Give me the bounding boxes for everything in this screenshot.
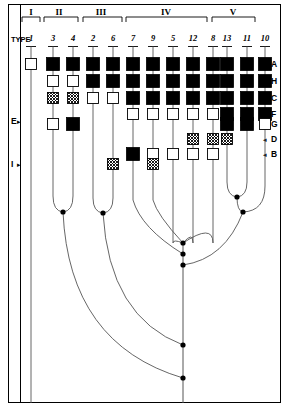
- matrix-cell-C-2[interactable]: [88, 93, 99, 104]
- matrix-cell-C-5[interactable]: [167, 92, 180, 105]
- matrix-cell-C-3[interactable]: [48, 93, 59, 104]
- matrix-cell-A-5[interactable]: [167, 58, 180, 71]
- matrix-cell-H-13[interactable]: [221, 75, 234, 88]
- tree-node-3-4[interactable]: [60, 209, 65, 214]
- side-label-I: I: [11, 159, 13, 169]
- matrix-cell-A-10[interactable]: [259, 58, 272, 71]
- matrix-cell-G-10[interactable]: [260, 119, 271, 130]
- column-number-7[interactable]: 7: [131, 33, 136, 43]
- matrix-cell-I-6[interactable]: [108, 159, 119, 170]
- branch-4-to-node34: [63, 196, 73, 212]
- matrix-cell-G-13[interactable]: [221, 118, 234, 131]
- matrix-cell-H-5[interactable]: [167, 75, 180, 88]
- column-number-5[interactable]: 5: [171, 33, 176, 43]
- matrix-cell-F-9[interactable]: [148, 109, 159, 120]
- matrix-cell-C-6[interactable]: [108, 93, 119, 104]
- column-number-3[interactable]: 3: [50, 33, 56, 43]
- matrix-cell-H-11[interactable]: [241, 75, 254, 88]
- matrix-cell-I-9[interactable]: [148, 159, 159, 170]
- column-number-12[interactable]: 12: [189, 33, 198, 43]
- matrix-cell-H-6[interactable]: [107, 75, 120, 88]
- group-bracket-V: [212, 17, 255, 22]
- matrix-cell-B-5[interactable]: [168, 149, 179, 160]
- matrix-cell-A-7[interactable]: [127, 58, 140, 71]
- branch-3-to-node34: [53, 196, 63, 212]
- tree-node-iv-1[interactable]: [180, 240, 185, 245]
- branch-9-to-iv1: [153, 200, 183, 243]
- column-number-8[interactable]: 8: [211, 33, 216, 43]
- matrix-cell-B-9[interactable]: [148, 149, 159, 160]
- matrix-cell-F-7[interactable]: [128, 109, 139, 120]
- matrix-cell-H-7[interactable]: [127, 75, 140, 88]
- matrix-cell-C-7[interactable]: [127, 92, 140, 105]
- row-label-B: B: [271, 149, 277, 159]
- group-bracket-IV: [126, 17, 207, 22]
- matrix-cell-C-9[interactable]: [147, 92, 160, 105]
- matrix-cell-H-12[interactable]: [187, 75, 200, 88]
- tree-node-2-6[interactable]: [100, 210, 105, 215]
- tree-node-root-2[interactable]: [180, 375, 185, 380]
- matrix-cell-H-8[interactable]: [207, 75, 220, 88]
- matrix-cell-H-3[interactable]: [48, 76, 59, 87]
- column-number-10[interactable]: 10: [261, 33, 270, 43]
- matrix-cell-B-12[interactable]: [188, 149, 199, 160]
- group-label-I: I: [29, 7, 33, 17]
- row-label-H: H: [271, 76, 277, 86]
- matrix-cell-F-8[interactable]: [208, 109, 219, 120]
- matrix-cell-G-11[interactable]: [241, 118, 254, 131]
- cladogram-figure: IIIIIIIVVTYPE13426795128131110◂A◂H◂C◂F◂G…: [0, 0, 289, 407]
- tree-node-v[interactable]: [240, 209, 245, 214]
- matrix-cell-D-12[interactable]: [188, 134, 199, 145]
- column-number-2[interactable]: 2: [90, 33, 96, 43]
- column-number-6[interactable]: 6: [111, 33, 116, 43]
- matrix-cell-A-4[interactable]: [67, 58, 80, 71]
- group-label-III: III: [96, 7, 107, 17]
- tree-node-iv-2[interactable]: [180, 251, 185, 256]
- matrix-cell-A-3[interactable]: [47, 58, 60, 71]
- matrix-cell-G-3[interactable]: [48, 119, 59, 130]
- matrix-cell-A-9[interactable]: [147, 58, 160, 71]
- matrix-cell-B-8[interactable]: [208, 149, 219, 160]
- row-label-A: A: [271, 59, 277, 69]
- matrix-cell-C-11[interactable]: [241, 92, 254, 105]
- matrix-cell-A-1[interactable]: [26, 59, 37, 70]
- matrix-cell-F-5[interactable]: [168, 109, 179, 120]
- matrix-cell-C-4[interactable]: [68, 93, 79, 104]
- column-number-4[interactable]: 4: [70, 33, 75, 43]
- column-number-13[interactable]: 13: [223, 33, 232, 43]
- matrix-cell-B-7[interactable]: [127, 148, 140, 161]
- matrix-cell-A-13[interactable]: [221, 58, 234, 71]
- matrix-cell-C-8[interactable]: [207, 92, 220, 105]
- matrix-cell-C-13[interactable]: [221, 92, 234, 105]
- branch-6-to-node26: [103, 198, 113, 213]
- matrix-cell-H-4[interactable]: [68, 76, 79, 87]
- matrix-cell-H-9[interactable]: [147, 75, 160, 88]
- matrix-cell-A-6[interactable]: [107, 58, 120, 71]
- matrix-cell-C-12[interactable]: [187, 92, 200, 105]
- tree-node-13-11[interactable]: [234, 194, 239, 199]
- tree-node-iv-3[interactable]: [180, 262, 185, 267]
- matrix-cell-F-12[interactable]: [188, 109, 199, 120]
- group-label-V: V: [230, 7, 237, 17]
- matrix-cell-A-2[interactable]: [87, 58, 100, 71]
- group-label-IV: IV: [161, 7, 172, 17]
- matrix-cell-C-10[interactable]: [259, 92, 272, 105]
- branch-node34-to-root2: [63, 212, 183, 378]
- matrix-cell-H-2[interactable]: [87, 75, 100, 88]
- column-number-9[interactable]: 9: [151, 33, 156, 43]
- column-number-1[interactable]: 1: [29, 33, 33, 43]
- matrix-cell-A-11[interactable]: [241, 58, 254, 71]
- column-number-11[interactable]: 11: [243, 33, 251, 43]
- group-label-II: II: [55, 7, 63, 17]
- type-header-label: TYPE: [11, 35, 31, 44]
- group-bracket-I: [22, 17, 40, 22]
- matrix-cell-H-10[interactable]: [259, 75, 272, 88]
- side-arrow-I: ▸: [17, 161, 21, 168]
- matrix-cell-A-12[interactable]: [187, 58, 200, 71]
- row-label-D: D: [271, 134, 277, 144]
- tree-node-root-1[interactable]: [180, 342, 185, 347]
- matrix-cell-D-13[interactable]: [222, 134, 233, 145]
- matrix-cell-D-8[interactable]: [208, 134, 219, 145]
- matrix-cell-A-8[interactable]: [207, 58, 220, 71]
- matrix-cell-G-4[interactable]: [67, 118, 80, 131]
